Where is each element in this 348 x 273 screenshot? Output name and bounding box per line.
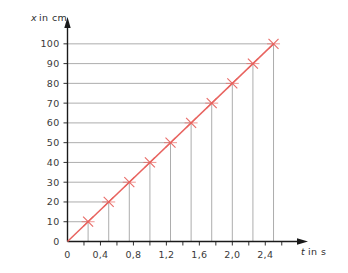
y-axis-label-symbol: x (30, 12, 37, 23)
x-axis-label-units: in s (308, 246, 326, 257)
x-tick-label: 0,8 (125, 249, 141, 260)
y-tick-label: 90 (47, 58, 60, 69)
y-tick-label: 40 (47, 157, 60, 168)
y-tick-label: 60 (47, 117, 60, 128)
x-tick-label: 0,4 (92, 249, 108, 260)
y-tick-label: 100 (40, 38, 59, 49)
y-tick-label: 0 (53, 236, 59, 247)
y-tick-label: 70 (47, 98, 60, 109)
chart-container: 00,40,81,21,62,02,4 01020304050607080901… (0, 0, 348, 273)
x-tick-label: 1,6 (191, 249, 207, 260)
x-tick-label: 2,0 (224, 249, 240, 260)
xt-diagram: 00,40,81,21,62,02,4 01020304050607080901… (0, 0, 348, 273)
x-tick-label: 0 (64, 249, 70, 260)
y-tick-label: 80 (47, 78, 60, 89)
y-tick-label: 50 (47, 137, 60, 148)
y-tick-label: 30 (47, 177, 60, 188)
x-tick-label: 2,4 (257, 249, 273, 260)
y-tick-label: 10 (47, 216, 60, 227)
y-tick-label: 20 (47, 196, 60, 207)
x-tick-label: 1,2 (158, 249, 174, 260)
y-axis-label-units: in cm (39, 12, 67, 23)
